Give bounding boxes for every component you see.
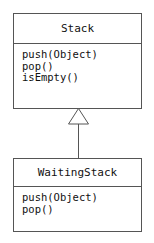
class-members-stack: push(Object) pop() isEmpty() — [14, 44, 141, 84]
class-name-stack: Stack — [14, 14, 141, 43]
class-box-waitingstack[interactable]: WaitingStack push(Object) pop() — [13, 158, 142, 232]
method-item: push(Object) — [22, 192, 141, 204]
method-item: push(Object) — [22, 49, 141, 61]
method-item: pop() — [22, 204, 141, 216]
class-name-waitingstack: WaitingStack — [14, 159, 141, 186]
method-item: isEmpty() — [22, 72, 141, 84]
class-box-stack[interactable]: Stack push(Object) pop() isEmpty() — [13, 13, 142, 109]
hollow-triangle-arrowhead-icon — [69, 109, 89, 125]
class-members-waitingstack: push(Object) pop() — [14, 187, 141, 215]
uml-class-diagram: Stack push(Object) pop() isEmpty() Waiti… — [0, 0, 154, 243]
